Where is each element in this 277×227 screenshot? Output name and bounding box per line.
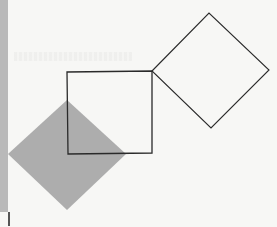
geometry-figure xyxy=(0,0,277,227)
right-diamond xyxy=(152,13,269,128)
